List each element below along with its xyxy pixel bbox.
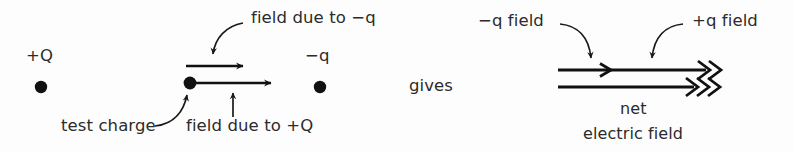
- label-field-due-to-positive-Q: field due to +Q: [186, 118, 313, 135]
- electric-field-diagram: +Q −q field due to −q test charge field …: [0, 0, 793, 152]
- label-electric-field: electric field: [583, 126, 683, 142]
- source-charge-positive-dot: [35, 81, 47, 93]
- leader-positive-q-field: [652, 24, 683, 58]
- source-charge-negative-dot: [314, 81, 326, 93]
- label-negative-q-field: −q field: [478, 13, 544, 30]
- leader-negative-q-field: [560, 24, 591, 58]
- label-field-due-to-negative-q: field due to −q: [251, 10, 376, 27]
- leader-test-charge: [155, 95, 187, 126]
- label-source-charge-positive: +Q: [26, 48, 53, 65]
- label-net: net: [620, 101, 647, 117]
- label-source-charge-negative: −q: [305, 48, 330, 65]
- leader-field-due-to-negative-q: [213, 23, 243, 54]
- label-gives: gives: [409, 78, 453, 95]
- label-test-charge: test charge: [61, 118, 156, 135]
- label-positive-q-field: +q field: [692, 13, 758, 30]
